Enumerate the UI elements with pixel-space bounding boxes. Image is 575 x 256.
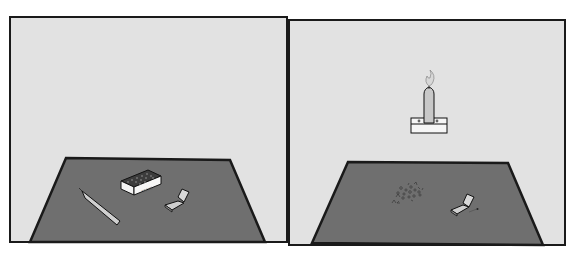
tack-icon — [418, 120, 421, 123]
panel-before: TACKS — [10, 17, 287, 242]
figure: TACKS — [0, 0, 575, 256]
tack-icon — [436, 120, 439, 123]
panel-after — [289, 20, 565, 245]
table — [312, 162, 543, 245]
candle — [424, 87, 434, 123]
